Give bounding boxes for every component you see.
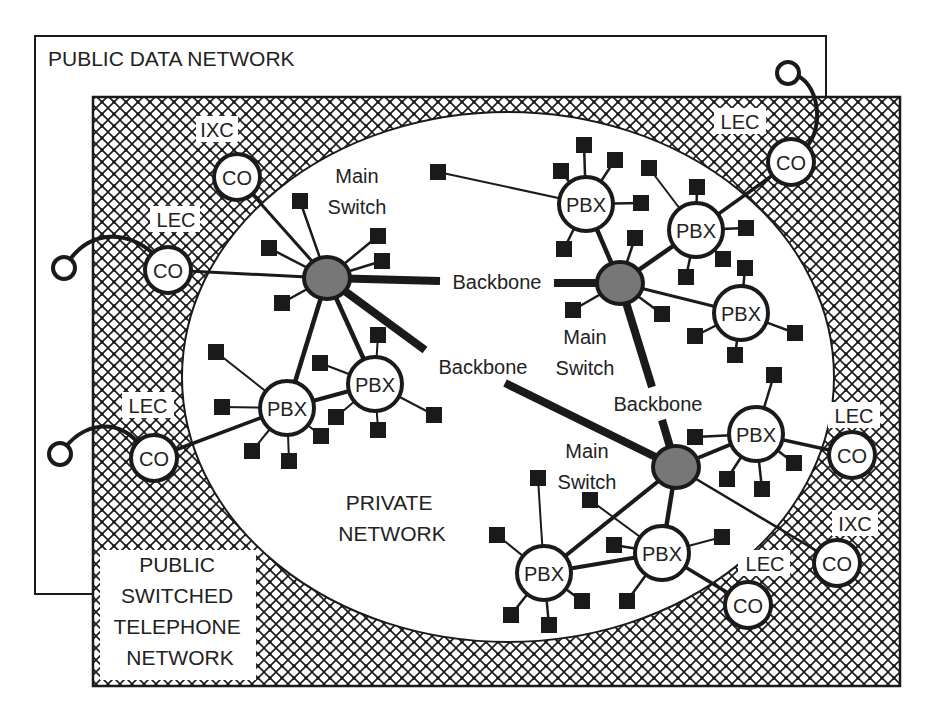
- phone-icon: [641, 160, 657, 176]
- phone-icon: [426, 407, 442, 423]
- svg-text:PBX: PBX: [676, 220, 716, 242]
- phone-icon: [787, 325, 803, 341]
- lec-label: LEC: [157, 209, 196, 231]
- phone-icon: [606, 537, 622, 553]
- lec-label: LEC: [835, 405, 874, 427]
- phone-icon: [370, 422, 386, 438]
- pdn-access-icon: [49, 443, 71, 465]
- svg-text:CO: CO: [822, 553, 852, 575]
- svg-text:PBX: PBX: [721, 303, 761, 325]
- svg-text:CO: CO: [837, 445, 867, 467]
- phone-icon: [687, 429, 703, 445]
- lec-label: LEC: [129, 395, 168, 417]
- phone-icon: [627, 230, 643, 246]
- main-switch-node: [653, 446, 699, 488]
- phone-icon: [208, 344, 224, 360]
- public-data-network-label: PUBLIC DATA NETWORK: [48, 47, 295, 70]
- pbx-node: PBX: [348, 357, 402, 411]
- phone-icon: [261, 240, 277, 256]
- phone-icon: [214, 399, 230, 415]
- phone-icon: [553, 163, 569, 179]
- phone-icon: [654, 306, 670, 322]
- phone-icon: [727, 347, 743, 363]
- phone-icon: [556, 241, 572, 257]
- pdn-access-icon: [53, 257, 75, 279]
- svg-text:CO: CO: [776, 152, 806, 174]
- phone-icon: [576, 137, 592, 153]
- phone-icon: [313, 428, 329, 444]
- svg-text:PBX: PBX: [736, 424, 776, 446]
- phone-icon: [541, 617, 557, 633]
- phone-icon: [766, 367, 782, 383]
- pbx-node: PBX: [669, 203, 723, 257]
- phone-icon: [281, 453, 297, 469]
- co-node: CO: [145, 247, 191, 293]
- pbx-node: PBX: [635, 526, 689, 580]
- svg-text:PBX: PBX: [355, 374, 395, 396]
- pbx-node: PBX: [260, 381, 314, 435]
- phone-icon: [715, 251, 731, 267]
- phone-icon: [489, 527, 505, 543]
- phone-icon: [689, 179, 705, 195]
- backbone-label: Backbone: [614, 393, 703, 415]
- co-node: CO: [214, 154, 260, 200]
- svg-text:CO: CO: [153, 260, 183, 282]
- co-node: CO: [814, 540, 860, 586]
- phone-icon: [244, 443, 260, 459]
- phone-icon: [687, 328, 703, 344]
- pbx-node: PBX: [729, 407, 783, 461]
- backbone-label: Backbone: [453, 271, 542, 293]
- co-node: CO: [725, 582, 771, 628]
- lec-label: LEC: [721, 111, 760, 133]
- main-switch-node: [597, 262, 643, 304]
- phone-icon: [328, 409, 344, 425]
- phone-icon: [530, 470, 546, 486]
- phone-icon: [738, 220, 754, 236]
- phone-icon: [714, 529, 730, 545]
- phone-icon: [678, 269, 694, 285]
- co-node: CO: [829, 432, 875, 478]
- main-switch-node: [304, 257, 350, 299]
- phone-icon: [737, 260, 753, 276]
- svg-text:CO: CO: [733, 595, 763, 617]
- lec-label: LEC: [746, 553, 785, 575]
- phone-icon: [370, 327, 386, 343]
- svg-text:PBX: PBX: [524, 563, 564, 585]
- co-node: CO: [131, 435, 177, 481]
- pdn-access-icon: [777, 62, 799, 84]
- phone-icon: [574, 593, 590, 609]
- phone-icon: [565, 302, 581, 318]
- pbx-node: PBX: [714, 286, 768, 340]
- phone-icon: [582, 492, 598, 508]
- ixc-label: IXC: [200, 119, 233, 141]
- phone-icon: [607, 152, 623, 168]
- phone-icon: [754, 481, 770, 497]
- phone-icon: [503, 607, 519, 623]
- pbx-node: PBX: [517, 546, 571, 600]
- svg-text:PBX: PBX: [267, 398, 307, 420]
- pbx-node: PBX: [559, 177, 613, 231]
- phone-icon: [312, 355, 328, 371]
- svg-text:CO: CO: [222, 167, 252, 189]
- phone-icon: [430, 164, 446, 180]
- svg-text:PBX: PBX: [642, 543, 682, 565]
- phone-icon: [274, 295, 290, 311]
- phone-icon: [619, 593, 635, 609]
- svg-text:PBX: PBX: [566, 194, 606, 216]
- svg-text:CO: CO: [139, 448, 169, 470]
- phone-icon: [370, 228, 386, 244]
- phone-icon: [292, 193, 308, 209]
- network-diagram: PUBLIC DATA NETWORK PUBLIC SWITCHED TELE…: [0, 0, 926, 720]
- phone-icon: [719, 471, 735, 487]
- phone-icon: [633, 195, 649, 211]
- phone-icon: [374, 253, 390, 269]
- co-node: CO: [768, 139, 814, 185]
- ixc-label: IXC: [838, 513, 871, 535]
- phone-icon: [786, 455, 802, 471]
- backbone-label: Backbone: [439, 356, 528, 378]
